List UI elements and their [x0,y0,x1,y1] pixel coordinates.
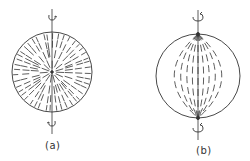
figure-canvas [0,0,250,161]
panel-b-bipolar-sphere [156,10,240,140]
panel-a-radial-sphere [12,9,92,134]
rotation-arrow-icon [49,15,57,20]
panel-b-label: (b) [196,145,212,156]
north-pole [197,33,200,36]
south-pole [197,117,200,120]
panel-a-label: (a) [45,140,60,151]
center-point [51,71,54,74]
rotation-arrow-icon [47,121,55,126]
